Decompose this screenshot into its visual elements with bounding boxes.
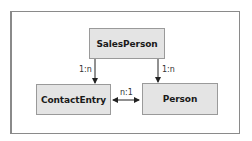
- entity-label: SalesPerson: [96, 39, 157, 49]
- entity-label: Person: [163, 94, 198, 104]
- entity-person: Person: [142, 83, 218, 115]
- cardinality-label: 1:n: [162, 66, 175, 74]
- entity-contactentry: ContactEntry: [36, 84, 111, 115]
- cardinality-label: 1:n: [79, 66, 92, 74]
- entity-salesperson: SalesPerson: [89, 28, 165, 59]
- entity-label: ContactEntry: [41, 95, 106, 105]
- cardinality-label: n:1: [120, 89, 133, 97]
